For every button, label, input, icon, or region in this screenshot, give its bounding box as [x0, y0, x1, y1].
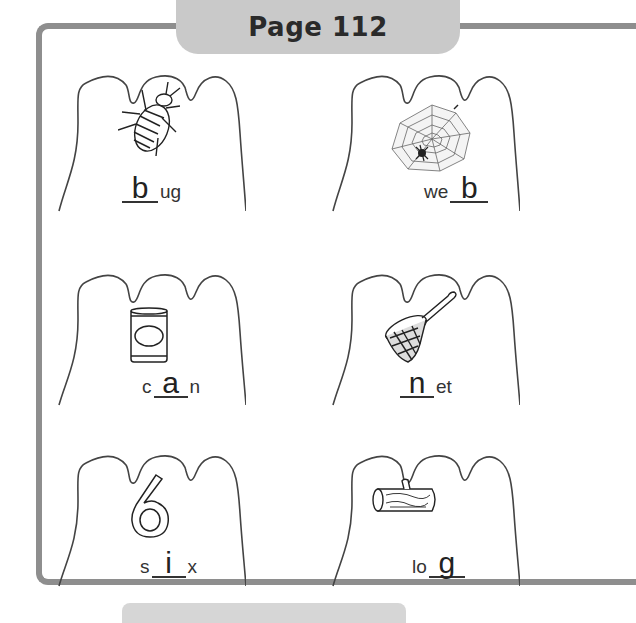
page-title: Page 112 [248, 12, 387, 42]
answer-blank[interactable]: n [400, 370, 434, 398]
answer-blank[interactable]: g [429, 550, 465, 578]
word-card-can: c a n [56, 262, 246, 407]
can-icon [128, 306, 170, 366]
word-prefix: we [424, 181, 448, 203]
word-label: n et [398, 370, 452, 398]
answer-blank[interactable]: a [154, 370, 188, 398]
answer-blank[interactable]: b [450, 175, 488, 203]
number-six-icon [128, 473, 172, 539]
word-card-bug: b ug [56, 63, 246, 213]
butterfly-net-icon [382, 288, 460, 364]
word-card-web: we b [330, 63, 520, 213]
word-label: we b [424, 175, 490, 203]
next-page-header [122, 603, 406, 623]
word-suffix: et [436, 376, 452, 398]
page-header: Page 112 [176, 0, 460, 54]
spider-web-icon [390, 103, 474, 173]
word-suffix: n [190, 376, 201, 398]
word-suffix: x [188, 556, 198, 578]
word-prefix: c [142, 376, 152, 398]
answer-blank[interactable]: i [152, 550, 186, 578]
word-label: c a n [142, 370, 200, 398]
word-label: s i x [140, 550, 197, 578]
word-card-six: s i x [56, 443, 246, 588]
word-card-log: lo g [330, 443, 520, 588]
word-prefix: lo [412, 556, 427, 578]
word-suffix: ug [160, 181, 181, 203]
answer-blank[interactable]: b [122, 175, 158, 203]
word-prefix: s [140, 556, 150, 578]
log-icon [370, 477, 440, 517]
word-label: b ug [120, 175, 181, 203]
bug-icon [118, 80, 190, 160]
word-label: lo g [412, 550, 467, 578]
word-card-net: n et [330, 262, 520, 407]
